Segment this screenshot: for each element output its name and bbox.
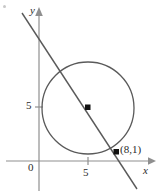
origin-label: 0 [28,162,34,173]
x-tick-label-5: 5 [83,167,89,178]
y-axis-label: y [30,5,35,16]
intersection-point-marker [114,149,120,155]
intersection-point-label: (8,1) [120,144,141,155]
coordinate-plane-figure: y x 0 5 5 (8,1) [0,0,160,194]
x-axis-label: x [143,165,148,176]
plot-canvas [0,0,160,194]
circle-center-marker [85,105,91,111]
y-tick-label-5: 5 [26,100,32,111]
